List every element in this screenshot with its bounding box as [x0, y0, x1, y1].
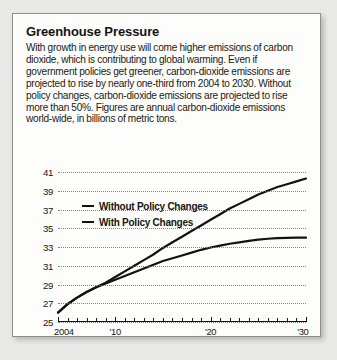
y-axis-tick-label: 37: [43, 204, 53, 215]
y-axis-tick-label: 29: [43, 279, 53, 290]
infographic-root: Greenhouse Pressure With growth in energ…: [0, 0, 337, 360]
x-axis-tick: [239, 318, 240, 322]
infobox-card: Greenhouse Pressure With growth in energ…: [12, 13, 321, 337]
x-axis-tick: [277, 318, 278, 322]
x-axis-tick: [296, 318, 297, 322]
x-axis-tick: [249, 318, 250, 322]
x-axis-tick: [125, 318, 126, 322]
legend-item-with-policy-changes: With Policy Changes: [82, 215, 208, 229]
x-axis-tick: [134, 318, 135, 322]
y-axis-tick-label: 35: [43, 223, 53, 234]
x-axis-tick: [182, 318, 183, 322]
x-axis-tick: [77, 318, 78, 322]
body-paragraph: With growth in energy use will come high…: [26, 42, 308, 125]
x-axis-tick-label: '20: [205, 326, 216, 337]
x-axis-tick: [230, 318, 231, 322]
chart-gridline: [58, 172, 306, 173]
y-axis-tick-label: 25: [43, 317, 53, 328]
chart-gridline: [58, 303, 306, 304]
x-axis-tick-label: 2004: [54, 326, 74, 337]
chart-gridline: [58, 247, 306, 248]
x-axis-tick: [115, 317, 116, 322]
chart-gridline: [58, 191, 306, 192]
x-axis-tick: [211, 317, 212, 322]
x-axis-tick: [201, 318, 202, 322]
legend-item-without-policy-changes: Without Policy Changes: [82, 199, 208, 213]
x-axis-tick: [106, 318, 107, 322]
line-chart: 4139373533312927252004'10'20'30 Without …: [26, 166, 314, 338]
x-axis-tick: [163, 318, 164, 322]
x-axis-tick: [96, 318, 97, 322]
chart-gridline: [58, 322, 306, 323]
legend-line-swatch-icon: [82, 221, 94, 224]
x-axis-tick: [220, 318, 221, 322]
legend-line-swatch-icon: [82, 205, 94, 208]
x-axis-tick: [58, 317, 59, 322]
x-axis-tick: [172, 318, 173, 322]
x-axis-tick: [87, 318, 88, 322]
legend-label-without-policy-changes: Without Policy Changes: [99, 201, 208, 212]
y-axis-tick-label: 41: [43, 167, 53, 178]
y-axis-tick-label: 39: [43, 185, 53, 196]
x-axis-tick: [306, 317, 307, 322]
x-axis-tick: [192, 318, 193, 322]
x-axis-tick-label: '10: [110, 326, 121, 337]
x-axis-tick: [144, 318, 145, 322]
chart-gridline: [58, 285, 306, 286]
x-axis-tick: [68, 318, 69, 322]
page-title: Greenhouse Pressure: [26, 24, 308, 39]
y-axis-tick-label: 27: [43, 298, 53, 309]
x-axis-tick: [268, 318, 269, 322]
y-axis-tick-label: 31: [43, 260, 53, 271]
chart-legend: Without Policy Changes With Policy Chang…: [82, 199, 208, 231]
chart-line-with-policy-changes: [58, 238, 306, 313]
x-axis-tick: [153, 318, 154, 322]
chart-plot-area: 4139373533312927252004'10'20'30: [58, 172, 306, 322]
y-axis-tick-label: 33: [43, 242, 53, 253]
x-axis-tick: [287, 318, 288, 322]
x-axis-tick: [258, 318, 259, 322]
x-axis-tick-label: '30: [297, 326, 308, 337]
legend-label-with-policy-changes: With Policy Changes: [99, 217, 193, 228]
chart-gridline: [58, 266, 306, 267]
